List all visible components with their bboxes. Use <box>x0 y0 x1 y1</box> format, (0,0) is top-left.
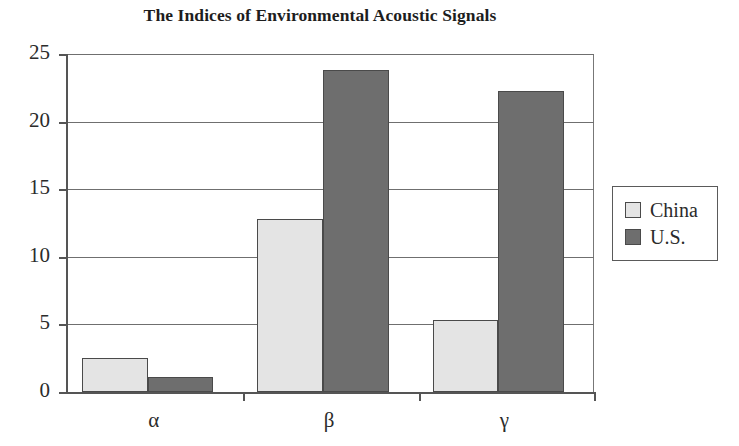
x-axis-tick <box>243 392 245 401</box>
bar-china-1 <box>82 358 148 392</box>
y-axis-tick <box>59 257 68 259</box>
y-axis-tick <box>59 54 68 56</box>
bar-us-3 <box>498 91 564 392</box>
legend-item: China <box>625 196 707 223</box>
x-axis-category-label: α <box>66 408 241 433</box>
chart-legend: ChinaU.S. <box>612 186 718 261</box>
bar-us-1 <box>148 377 214 392</box>
legend-swatch-icon <box>625 202 641 218</box>
x-axis-tick <box>419 392 421 401</box>
chart-title: The Indices of Environmental Acoustic Si… <box>0 5 640 26</box>
y-axis-tick-label: 20 <box>0 110 50 131</box>
gridline <box>68 54 594 55</box>
bar-china-2 <box>257 219 323 392</box>
y-axis-tick <box>59 392 68 394</box>
x-axis-category-label: β <box>241 408 416 433</box>
bar-us-2 <box>323 70 389 392</box>
legend-label: China <box>650 200 698 220</box>
bar-chart: The Indices of Environmental Acoustic Si… <box>0 0 739 446</box>
y-axis-tick-label: 25 <box>0 42 50 63</box>
y-axis-tick-label: 5 <box>0 312 50 333</box>
legend-label: U.S. <box>650 227 686 247</box>
y-axis-tick-label: 10 <box>0 245 50 266</box>
legend-swatch-icon <box>625 229 641 245</box>
x-axis-tick <box>594 392 596 401</box>
bar-china-3 <box>433 320 499 392</box>
y-axis-tick <box>59 189 68 191</box>
y-axis-tick <box>59 122 68 124</box>
y-axis-tick-label: 15 <box>0 177 50 198</box>
y-axis-tick <box>59 324 68 326</box>
plot-area <box>66 54 594 394</box>
y-axis-tick-label: 0 <box>0 380 50 401</box>
x-axis-category-label: γ <box>417 408 592 433</box>
legend-item: U.S. <box>625 223 707 250</box>
plot-right-border <box>593 54 594 392</box>
